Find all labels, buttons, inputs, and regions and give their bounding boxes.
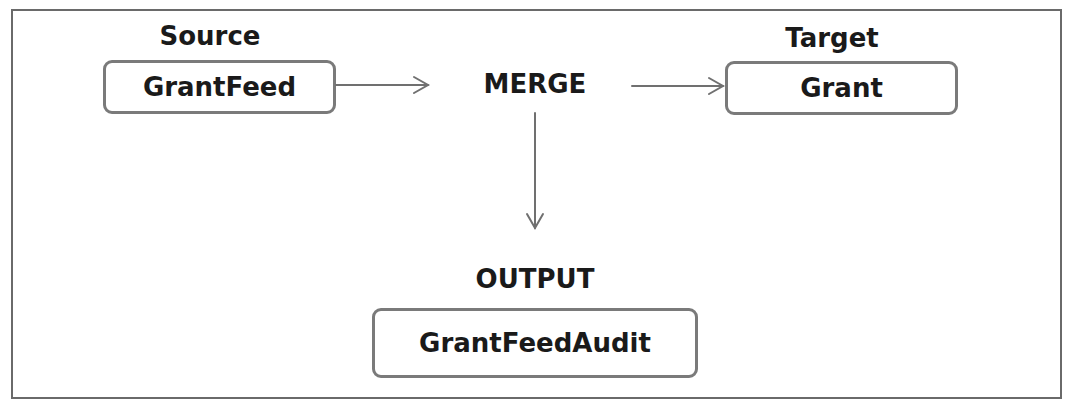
arrow-merge-to-target-icon [632, 78, 723, 94]
connector-arrows [0, 0, 1070, 402]
arrow-merge-to-output-icon [527, 113, 543, 228]
arrow-source-to-merge-icon [336, 77, 428, 93]
